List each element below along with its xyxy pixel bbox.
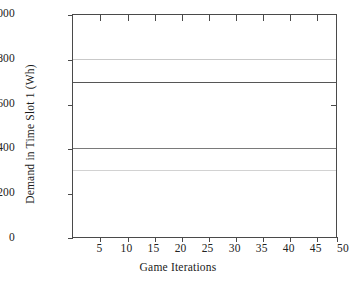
x-tick-label-45: 45 (301, 243, 331, 255)
x-tick-label-10: 10 (112, 243, 142, 255)
chart-figure: 1000 800 600 400 200 0 5 10 15 20 25 30 … (0, 0, 356, 287)
x-tick-label-35: 35 (247, 243, 277, 255)
x-tick-label-5: 5 (84, 243, 114, 255)
series-line-d (73, 170, 336, 171)
x-tick-bottom-10 (128, 237, 129, 242)
series-line-c (73, 148, 336, 149)
x-tick-label-15: 15 (139, 243, 169, 255)
x-tick-label-25: 25 (193, 243, 223, 255)
series-line-a (73, 59, 336, 60)
y-tick-label-1000: 1000 (0, 8, 15, 20)
x-tick-top-5 (100, 15, 101, 21)
x-tick-top-45 (317, 15, 318, 21)
x-tick-top-25 (209, 15, 210, 21)
x-tick-top-35 (263, 15, 264, 21)
x-tick-label-40: 40 (274, 243, 304, 255)
x-tick-label-30: 30 (220, 243, 250, 255)
y-tick-right-600 (331, 105, 336, 106)
x-tick-top-10 (128, 15, 129, 21)
y-tick-200 (68, 194, 73, 195)
x-tick-bottom-5 (100, 237, 101, 242)
y-tick-0 (68, 238, 73, 239)
plot-area (72, 14, 337, 238)
x-tick-bottom-15 (155, 237, 156, 242)
y-tick-600 (68, 105, 73, 106)
x-tick-top-20 (182, 15, 183, 21)
x-tick-bottom-25 (209, 237, 210, 242)
y-tick-label-800: 800 (0, 53, 15, 65)
x-tick-bottom-45 (317, 237, 318, 242)
x-tick-bottom-50 (337, 237, 338, 242)
x-tick-top-30 (236, 15, 237, 21)
x-tick-label-20: 20 (166, 243, 196, 255)
y-tick-label-0: 0 (0, 232, 15, 244)
y-tick-label-400: 400 (0, 142, 15, 154)
y-tick-label-200: 200 (0, 187, 15, 199)
y-tick-label-600: 600 (0, 98, 15, 110)
x-tick-top-40 (290, 15, 291, 21)
y-tick-400 (68, 149, 73, 150)
x-tick-bottom-35 (263, 237, 264, 242)
x-tick-label-50: 50 (328, 243, 356, 255)
x-tick-bottom-30 (236, 237, 237, 242)
x-tick-bottom-40 (290, 237, 291, 242)
y-axis-title: Demand in Time Slot 1 (Wh) (24, 22, 40, 246)
y-tick-1000 (68, 15, 73, 16)
x-tick-top-15 (155, 15, 156, 21)
series-line-b (73, 82, 336, 83)
x-tick-bottom-20 (182, 237, 183, 242)
x-axis-title: Game Iterations (0, 261, 356, 273)
